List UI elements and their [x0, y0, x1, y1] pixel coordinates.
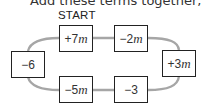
term-coefficient: 3 — [131, 83, 138, 97]
term-coefficient: 3 — [174, 57, 181, 71]
term-variable: m — [78, 31, 87, 47]
term-sign: + — [167, 57, 174, 71]
term-box-bottom-right: −3 — [114, 76, 148, 103]
term-sign: − — [119, 32, 126, 46]
term-sign: − — [124, 83, 131, 97]
term-box-top-right: −2m — [114, 25, 148, 52]
term-coefficient: 7 — [71, 32, 78, 46]
term-variable: m — [181, 56, 190, 72]
term-box-left: −6 — [11, 51, 45, 78]
term-coefficient: 6 — [28, 58, 35, 72]
term-coefficient: 2 — [126, 32, 133, 46]
term-sign: + — [64, 32, 71, 46]
term-coefficient: 5 — [71, 83, 78, 97]
term-box-top-left: +7m — [59, 25, 93, 52]
term-sign: − — [64, 83, 71, 97]
term-sign: − — [21, 58, 28, 72]
term-variable: m — [78, 82, 87, 98]
term-box-right: +3m — [162, 50, 196, 77]
term-box-bottom-left: −5m — [59, 76, 93, 103]
term-variable: m — [133, 31, 142, 47]
